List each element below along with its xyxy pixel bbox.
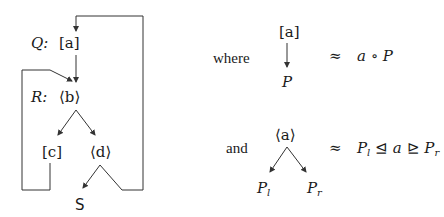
where-word: where bbox=[213, 51, 250, 66]
and-word: and bbox=[226, 141, 248, 156]
r-node: ⟨b⟩ bbox=[59, 90, 80, 105]
and-left-node: Pl bbox=[257, 181, 270, 198]
where-bottom-node: P bbox=[282, 75, 292, 90]
s-node: S bbox=[75, 198, 85, 213]
edge-and-a-to-pl bbox=[270, 147, 287, 172]
edge-r-to-c bbox=[58, 110, 76, 135]
q-node: [a] bbox=[59, 36, 80, 51]
loop-edge-to-q bbox=[76, 16, 143, 190]
diagram-edges bbox=[0, 0, 444, 217]
where-approx: ≈ bbox=[329, 49, 342, 64]
r-label: R: bbox=[31, 90, 47, 105]
and-approx: ≈ bbox=[329, 141, 342, 156]
edge-and-a-to-pr bbox=[287, 147, 306, 172]
and-rhs: Pl ⊴ a ⊵ Pr bbox=[357, 141, 439, 158]
edge-d-to-s bbox=[83, 165, 100, 188]
and-top-node: ⟨a⟩ bbox=[275, 128, 296, 143]
where-rhs: a ∘ P bbox=[357, 49, 393, 64]
c-node: [c] bbox=[42, 145, 62, 160]
edge-d-to-loop bbox=[100, 165, 143, 190]
d-node: ⟨d⟩ bbox=[90, 145, 111, 160]
where-top-node: [a] bbox=[279, 25, 300, 40]
edge-r-to-d bbox=[76, 110, 95, 135]
q-label: Q: bbox=[31, 36, 48, 51]
and-right-node: Pr bbox=[307, 181, 322, 198]
